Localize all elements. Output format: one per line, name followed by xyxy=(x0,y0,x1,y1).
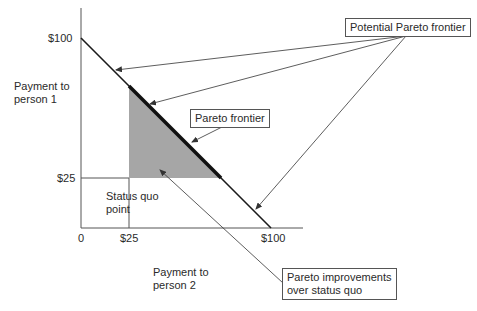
status-quo-label-line2: point xyxy=(106,203,159,216)
y-axis-label-line1: Payment to xyxy=(14,80,70,93)
pareto-improvements-line2: over status quo xyxy=(287,284,392,297)
arrow-potential-1 xyxy=(116,36,406,70)
pareto-diagram xyxy=(0,0,477,311)
y-axis-label: Payment to person 1 xyxy=(14,80,70,106)
status-quo-label-line1: Status quo xyxy=(106,190,159,203)
potential-pareto-frontier-callout: Potential Pareto frontier xyxy=(345,18,471,37)
arrow-potential-3 xyxy=(256,36,406,209)
y-axis-label-line2: person 1 xyxy=(14,93,70,106)
x-axis-label-line2: person 2 xyxy=(153,279,209,292)
pareto-frontier-callout: Pareto frontier xyxy=(190,109,270,128)
x-axis-label: Payment to person 2 xyxy=(153,266,209,292)
x-tick-0: 0 xyxy=(78,232,84,245)
x-axis-label-line1: Payment to xyxy=(153,266,209,279)
y-tick-25: $25 xyxy=(57,172,75,185)
x-tick-25: $25 xyxy=(120,232,138,245)
pareto-improvements-line1: Pareto improvements xyxy=(287,271,392,284)
x-tick-100: $100 xyxy=(261,232,285,245)
status-quo-label: Status quo point xyxy=(106,190,159,216)
y-tick-100: $100 xyxy=(48,32,72,45)
arrow-potential-2 xyxy=(150,36,406,104)
pareto-improvements-callout: Pareto improvements over status quo xyxy=(282,268,397,300)
